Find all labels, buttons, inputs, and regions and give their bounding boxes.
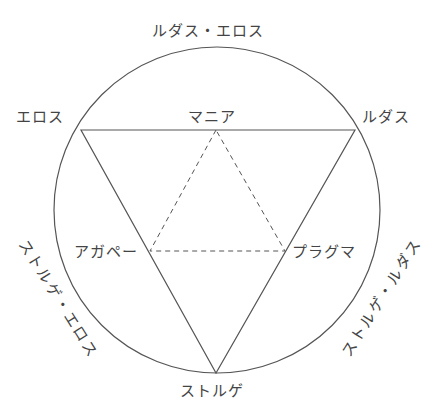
diagram-canvas (0, 0, 438, 418)
outer-circle (54, 47, 380, 373)
label-agape: アガペー (74, 243, 138, 261)
label-pragma: プラグマ (292, 243, 356, 261)
label-ludus-eros: ルダス・エロス (152, 22, 264, 40)
love-styles-diagram: ルダス・エロス エロス マニア ルダス アガペー プラグマ ストルゲ ストルゲ・… (0, 0, 438, 418)
label-mania: マニア (188, 108, 236, 126)
label-ludus: ルダス (362, 108, 410, 126)
secondary-styles-dashed-triangle (150, 130, 285, 251)
label-eros: エロス (16, 108, 64, 126)
label-storge: ストルゲ (180, 382, 244, 400)
